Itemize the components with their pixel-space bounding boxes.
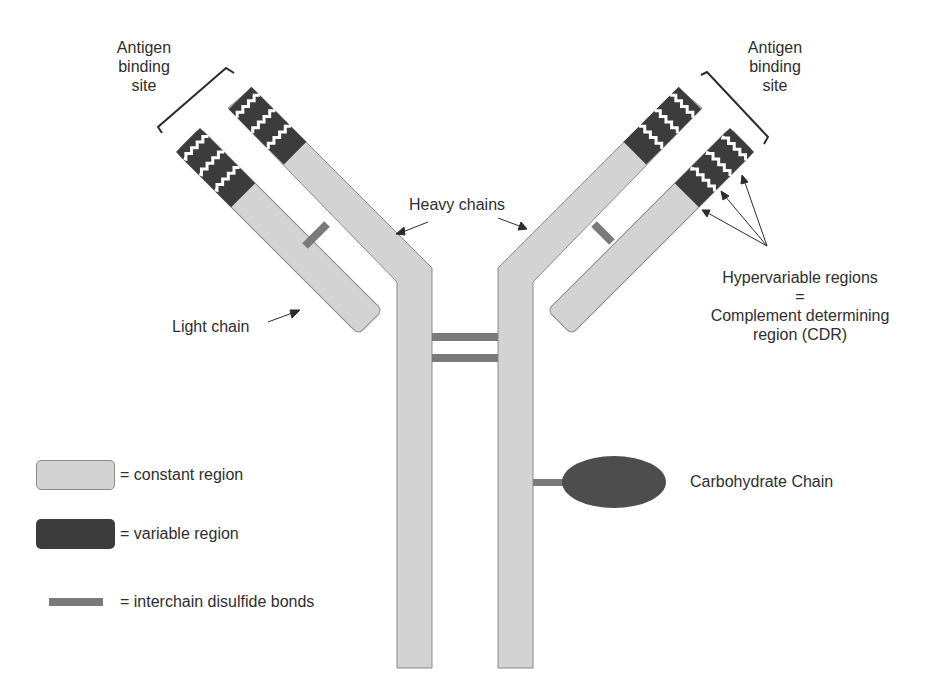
heavy-chains-label: Heavy chains [409, 195, 505, 214]
constant-region-swatch [36, 460, 115, 490]
label-line: site [104, 76, 184, 95]
label-line: binding [104, 57, 184, 76]
hinge-disulfide-bond-1 [432, 333, 498, 341]
legend-label: = interchain disulfide bonds [120, 593, 314, 611]
label-line: Antigen [104, 38, 184, 57]
legend-label: = constant region [120, 466, 243, 484]
label-line: Antigen [735, 38, 815, 57]
cdr-arrow-1 [706, 212, 767, 246]
right-heavy-chain [498, 87, 702, 668]
heavy-chain-arrow-right [498, 218, 522, 227]
label-line: binding [735, 57, 815, 76]
disulfide-bond-swatch [49, 598, 103, 606]
label-line: = [680, 287, 920, 306]
cdr-arrow-2 [724, 195, 767, 246]
label-line: Hypervariable regions [680, 268, 920, 287]
variable-region-swatch [36, 519, 115, 549]
label-line: region (CDR) [680, 325, 920, 344]
light-chain-label: Light chain [172, 317, 249, 336]
label-line: Complement determining [680, 306, 920, 325]
cdr-arrow-3 [744, 180, 767, 246]
legend-item-bond: = interchain disulfide bonds [36, 593, 314, 611]
antigen-binding-site-label-left: Antigen binding site [104, 38, 184, 95]
legend-item-variable: = variable region [36, 519, 239, 549]
hypervariable-regions-label: Hypervariable regions = Complement deter… [680, 268, 920, 344]
carbohydrate-ellipse [562, 456, 666, 508]
carbohydrate-chain-label: Carbohydrate Chain [690, 472, 833, 491]
label-line: site [735, 76, 815, 95]
left-disulfide-bond [305, 224, 327, 246]
legend-label: = variable region [120, 525, 239, 543]
left-heavy-chain [228, 87, 432, 668]
right-disulfide-bond [594, 224, 612, 242]
antigen-binding-site-label-right: Antigen binding site [735, 38, 815, 95]
legend-item-constant: = constant region [36, 460, 243, 490]
hinge-disulfide-bond-2 [432, 354, 498, 362]
